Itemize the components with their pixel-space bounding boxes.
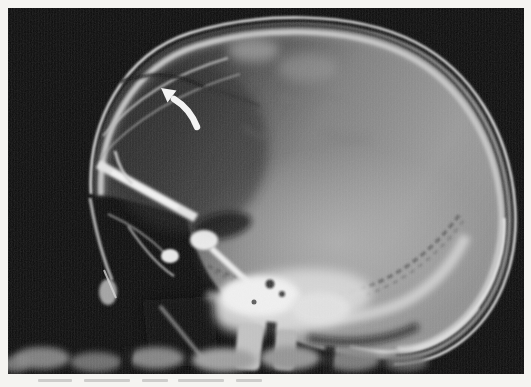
skull-lateral-radiograph [8,8,524,374]
cropped-caption-remnant [0,379,531,385]
caption-smudge [178,379,224,382]
radiograph-canvas [8,8,524,374]
film-grain [8,8,524,374]
caption-smudge [236,379,262,382]
caption-smudge [38,379,72,382]
figure-page [0,0,531,387]
caption-smudge [84,379,130,382]
caption-smudge [142,379,168,382]
